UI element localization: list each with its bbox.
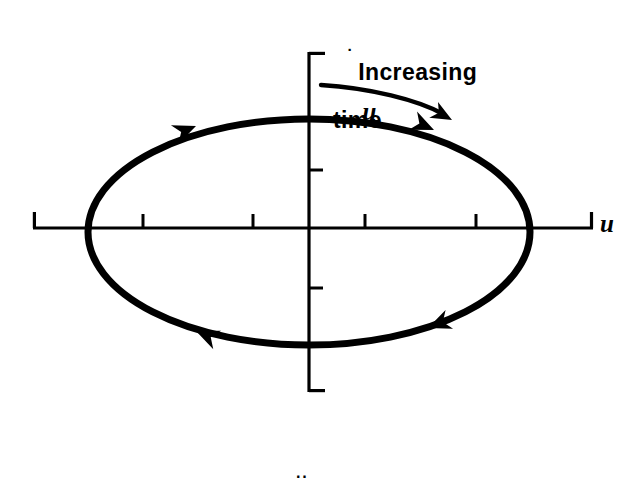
equation-term1-dots: ·· (296, 468, 309, 485)
increasing-time-label: Increasing time (331, 36, 477, 181)
equation-caption: ·· u + 1 4 u = 0 (0, 418, 629, 486)
equation-term1-glyph: ·· u (263, 473, 342, 486)
phase-plane-figure: · u u Increasing time ·· u + 1 4 u = (0, 0, 629, 486)
increasing-time-line2: time (331, 108, 477, 132)
x-axis-label: u (600, 211, 614, 237)
equation-term1: ·· u (211, 445, 342, 486)
equation-row: ·· u + 1 4 u = 0 (211, 445, 445, 486)
increasing-time-line1: Increasing (358, 59, 477, 85)
